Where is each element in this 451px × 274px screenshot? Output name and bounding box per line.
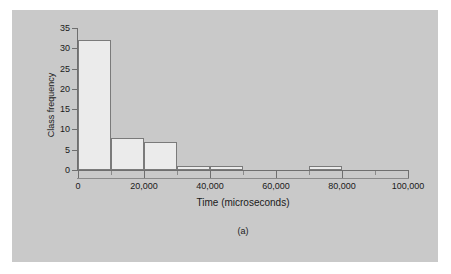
x-axis-tick <box>78 171 79 178</box>
x-axis-tick-label: 100,000 <box>392 181 425 191</box>
y-axis-tick-label: 10 <box>44 125 70 134</box>
x-axis-baseline <box>77 178 409 179</box>
y-axis-tick-labels: 05101520253035 <box>40 0 70 274</box>
x-axis-minor-tick <box>375 171 376 175</box>
figure-root: Class frequency 05101520253035 020,00040… <box>0 0 451 274</box>
y-axis-tick-label: 25 <box>44 65 70 74</box>
x-axis-title: Time (microseconds) <box>78 197 408 208</box>
y-axis-tick <box>72 129 77 130</box>
y-axis-tick-label: 30 <box>44 44 70 53</box>
histogram-bar <box>210 166 243 170</box>
histogram-bar <box>177 166 210 170</box>
y-axis-tick <box>72 89 77 90</box>
y-axis-tick-label: 15 <box>44 105 70 114</box>
x-axis-tick-label: 40,000 <box>196 181 224 191</box>
y-axis-tick <box>72 48 77 49</box>
x-axis-tick <box>210 171 211 178</box>
x-axis-tick <box>276 171 277 178</box>
x-axis-tick-label: 0 <box>75 181 80 191</box>
y-axis-tick <box>72 109 77 110</box>
figure-caption: (a) <box>78 226 408 236</box>
x-axis-tick <box>408 171 409 178</box>
y-axis-tick <box>72 150 77 151</box>
histogram-bar <box>309 166 342 170</box>
x-axis-tick <box>144 171 145 178</box>
y-axis-tick <box>72 170 77 171</box>
y-axis-tick-label: 5 <box>44 146 70 155</box>
y-axis-tick-label: 35 <box>44 24 70 33</box>
histogram-bar <box>144 142 177 170</box>
x-axis-tick-label: 80,000 <box>328 181 356 191</box>
plot-area <box>78 28 408 170</box>
y-axis-title-wrapper: Class frequency <box>24 40 38 150</box>
y-axis-tick <box>72 69 77 70</box>
x-axis-minor-tick <box>177 171 178 175</box>
x-axis-tick-label: 60,000 <box>262 181 290 191</box>
x-axis-minor-tick <box>111 171 112 175</box>
x-axis-tick-label: 20,000 <box>130 181 158 191</box>
histogram-bar <box>111 138 144 170</box>
y-axis-tick-label: 0 <box>44 166 70 175</box>
y-axis-tick <box>72 28 77 29</box>
y-axis-tick-label: 20 <box>44 85 70 94</box>
x-axis-minor-tick <box>309 171 310 175</box>
x-axis-tick <box>342 171 343 178</box>
histogram-bar <box>78 40 111 170</box>
x-axis-minor-tick <box>243 171 244 175</box>
